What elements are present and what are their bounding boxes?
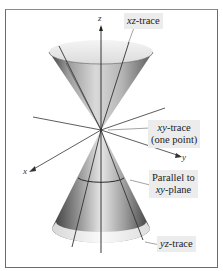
xy-leader: [108, 128, 150, 130]
x-axis-label: x: [23, 166, 27, 176]
xy-trace-label: xy-trace (one point): [148, 120, 200, 148]
z-axis-label: z: [98, 13, 102, 23]
y-axis-label: y: [182, 152, 186, 162]
z-arrow-icon: [99, 25, 103, 31]
x-axis: [33, 117, 101, 130]
y-arrow-icon: [175, 153, 182, 158]
yz-trace-label: yz-trace: [157, 236, 196, 252]
parallel-plane-label: Parallel to xy-plane: [149, 170, 198, 198]
x-arrow-icon: [29, 166, 36, 172]
parallel-leader: [130, 180, 150, 185]
xz-trace-label: xz-trace: [124, 13, 163, 29]
